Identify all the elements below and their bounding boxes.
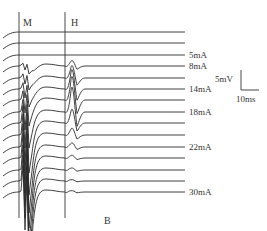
panel-label: B [104, 215, 111, 226]
stimulus-label: 22mA [189, 142, 212, 152]
emg-trace [3, 66, 185, 90]
scale-bar-time: 10ms [236, 94, 256, 104]
emg-trace [3, 124, 185, 213]
emg-trace [3, 114, 185, 195]
scale-bar: 5mV 10ms [215, 70, 259, 104]
scale-bar-voltage: 5mV [215, 74, 234, 84]
emg-traces [3, 32, 185, 231]
emg-trace [3, 106, 185, 174]
emg-chart: M H 5mA8mA14mA18mA22mA30mA 5mV 10ms B [0, 0, 267, 231]
stimulus-label: 30mA [189, 187, 212, 197]
emg-trace [3, 76, 185, 126]
emg-trace [3, 55, 185, 61]
emg-trace [3, 87, 185, 148]
stimulus-label: 18mA [189, 107, 212, 117]
stimulus-label: 8mA [189, 61, 208, 71]
m-marker-label: M [23, 17, 32, 28]
stimulus-label: 14mA [189, 84, 212, 94]
h-marker-label: H [71, 17, 78, 28]
stimulus-label: 5mA [189, 50, 208, 60]
emg-trace [3, 60, 185, 74]
stimulus-labels: 5mA8mA14mA18mA22mA30mA [189, 50, 212, 197]
emg-trace [3, 43, 185, 49]
emg-trace [3, 32, 185, 38]
